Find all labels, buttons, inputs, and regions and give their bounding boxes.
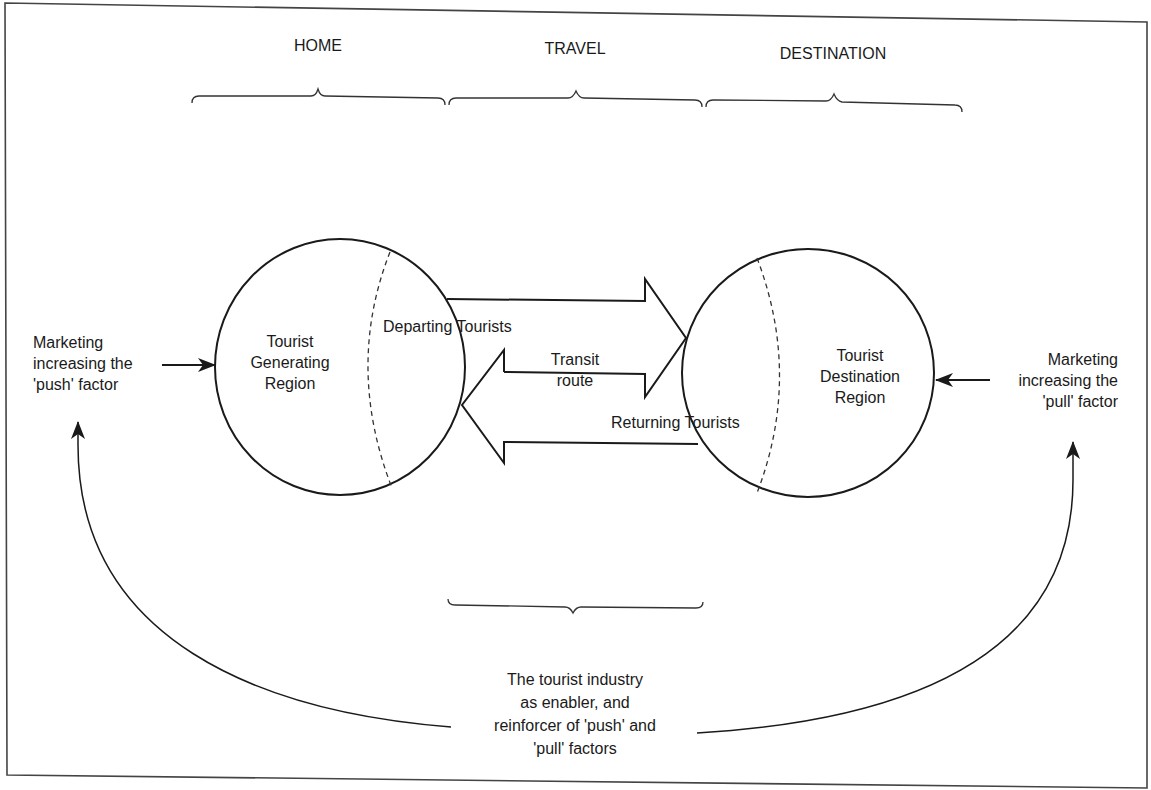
stage-label-home: HOME <box>258 35 378 56</box>
push-line-3: 'push' factor <box>33 374 133 395</box>
generating-region-divider <box>368 252 392 488</box>
transit-route-label: Transit route <box>525 349 625 391</box>
pull-line-2: increasing the <box>990 370 1118 391</box>
brace-destination <box>706 94 962 112</box>
generating-region-line-3: Region <box>230 373 350 394</box>
generating-region-label: Tourist Generating Region <box>230 331 350 394</box>
push-line-2: increasing the <box>33 353 133 374</box>
industry-line-3: reinforcer of 'push' and <box>455 714 695 737</box>
industry-to-push-curve <box>78 422 451 727</box>
stage-label-travel: TRAVEL <box>515 38 635 59</box>
pull-line-3: 'pull' factor <box>990 391 1118 412</box>
transit-line-2: route <box>525 370 625 391</box>
destination-region-line-1: Tourist <box>800 345 920 366</box>
stage-label-destination: DESTINATION <box>758 43 908 64</box>
transit-line-1: Transit <box>525 349 625 370</box>
destination-region-line-2: Destination <box>800 366 920 387</box>
marketing-push-label: Marketing increasing the 'push' factor <box>33 332 133 395</box>
generating-region-line-1: Tourist <box>230 331 350 352</box>
destination-region-label: Tourist Destination Region <box>800 345 920 408</box>
brace-home <box>192 89 445 105</box>
departing-tourists-label: Departing Tourists <box>383 316 512 337</box>
generating-region-line-2: Generating <box>230 352 350 373</box>
push-line-1: Marketing <box>33 332 133 353</box>
pull-line-1: Marketing <box>990 349 1118 370</box>
destination-region-line-3: Region <box>800 387 920 408</box>
returning-tourists-label: Returning Tourists <box>611 412 740 433</box>
industry-line-2: as enabler, and <box>455 691 695 714</box>
brace-travel <box>449 91 702 107</box>
destination-region-divider <box>757 258 780 493</box>
tourist-industry-label: The tourist industry as enabler, and rei… <box>455 668 695 760</box>
brace-industry <box>448 599 703 613</box>
marketing-pull-label: Marketing increasing the 'pull' factor <box>990 349 1118 412</box>
industry-line-1: The tourist industry <box>455 668 695 691</box>
industry-line-4: 'pull' factors <box>455 737 695 760</box>
